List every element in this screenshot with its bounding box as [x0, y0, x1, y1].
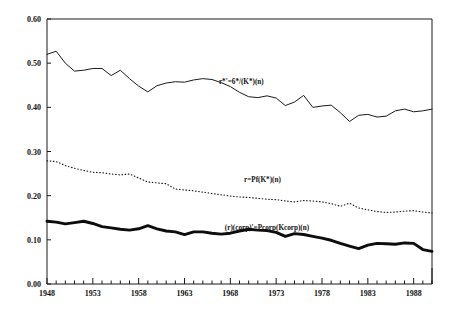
x-axis-minor-ticks — [56, 281, 432, 285]
x-tick-label: 1953 — [85, 289, 101, 298]
x-tick-label: 1958 — [131, 289, 147, 298]
x-tick-label: 1978 — [314, 289, 330, 298]
x-tick-label: 1948 — [39, 289, 55, 298]
series-annotation-0: r*'=6*/(K*)(n) — [219, 78, 264, 86]
y-tick-label: 0.30 — [27, 148, 41, 157]
x-axis-ticks: 194819531958196319681973197819831988 — [39, 278, 422, 298]
series-line-1 — [47, 161, 432, 213]
series-annotation-2: (r)(corp)'=Pcorp(Kcorp)(n) — [225, 224, 310, 232]
y-tick-label: 0.60 — [27, 15, 41, 24]
x-tick-label: 1968 — [222, 289, 238, 298]
y-tick-label: 0.20 — [27, 192, 41, 201]
x-tick-label: 1963 — [177, 289, 193, 298]
figure-container: 0.000.100.200.300.400.500.60 19481953195… — [0, 0, 460, 315]
y-tick-label: 0.10 — [27, 236, 41, 245]
x-tick-label: 1988 — [406, 289, 422, 298]
y-tick-label: 0.50 — [27, 59, 41, 68]
x-tick-label: 1973 — [268, 289, 284, 298]
y-tick-label: 0.00 — [27, 280, 41, 289]
x-tick-label: 1983 — [360, 289, 376, 298]
line-chart: 0.000.100.200.300.400.500.60 19481953195… — [0, 0, 460, 315]
y-tick-label: 0.40 — [27, 103, 41, 112]
series-annotation-1: r=Pf(K*)(n) — [244, 176, 281, 184]
